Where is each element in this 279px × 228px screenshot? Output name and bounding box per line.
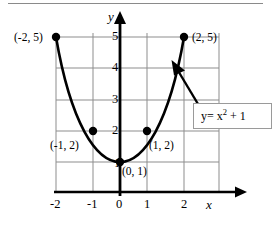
parabola-figure: 5 4 3 2 1 -2 -1 0 1 2 x y (-2, 5) (2, 5)… xyxy=(0,0,279,228)
point-2-5 xyxy=(180,33,188,41)
y-tick-3: 3 xyxy=(112,93,118,106)
y-tick-4: 4 xyxy=(112,61,118,74)
x-tick-neg2: -2 xyxy=(50,198,60,211)
x-axis-label: x xyxy=(206,198,212,211)
coord-label-neg1-2: (-1, 2) xyxy=(50,140,79,152)
point-neg2-5 xyxy=(52,33,60,41)
x-tick-2: 2 xyxy=(181,198,187,211)
x-tick-neg1: -1 xyxy=(87,198,97,211)
equation-suffix: + 1 xyxy=(227,109,246,123)
point-1-2 xyxy=(143,127,151,135)
x-tick-0: 0 xyxy=(116,198,122,211)
equation-callout-box: y= x2 + 1 xyxy=(193,103,272,129)
coord-label-1-2: (1, 2) xyxy=(149,140,174,152)
coord-label-neg2-5: (-2, 5) xyxy=(14,32,43,44)
y-tick-2: 2 xyxy=(112,124,118,137)
y-tick-1: 1 xyxy=(114,157,120,170)
x-tick-1: 1 xyxy=(144,198,150,211)
coord-label-2-5: (2, 5) xyxy=(192,32,217,44)
x-axis xyxy=(54,187,247,198)
y-tick-5: 5 xyxy=(112,30,118,43)
equation-prefix: y= x xyxy=(201,109,223,123)
coord-label-0-1: (0, 1) xyxy=(122,166,147,178)
y-axis-label: y xyxy=(108,10,114,23)
equation-text: y= x2 + 1 xyxy=(201,109,246,124)
point-neg1-2 xyxy=(89,127,97,135)
